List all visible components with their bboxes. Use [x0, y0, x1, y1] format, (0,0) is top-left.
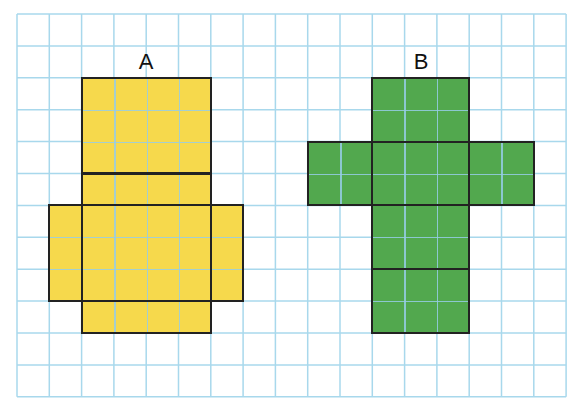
net-a-bottom-strip-face — [81, 300, 212, 334]
net-b-bottom-face — [371, 268, 470, 334]
net-a-top-face — [81, 77, 212, 175]
net-a-upper-strip-face — [81, 173, 212, 207]
net-b-center-face — [371, 141, 470, 207]
net-b-lower-face — [371, 204, 470, 270]
net-a-center-face — [81, 204, 212, 302]
net-a-left-flap-face — [48, 204, 82, 302]
grid-paper-diagram: AB — [0, 0, 579, 412]
net-a-right-flap-face — [210, 204, 244, 302]
net-b-right-flap-face — [468, 141, 535, 207]
net-b-top-face — [371, 77, 470, 143]
net-label-b: B — [414, 49, 429, 75]
net-label-a: A — [139, 49, 154, 75]
net-b-left-flap-face — [307, 141, 374, 207]
